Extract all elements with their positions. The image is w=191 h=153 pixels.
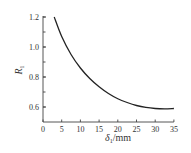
data-line-r1: [54, 17, 174, 109]
x-tick-label: 10: [76, 125, 84, 134]
axes: 051015202530350.60.81.01.2: [29, 13, 178, 134]
y-tick-label: 0.6: [29, 103, 39, 112]
x-axis-label: δ1/mm: [105, 132, 131, 144]
x-tick-label: 5: [60, 125, 64, 134]
x-tick-label: 35: [170, 125, 178, 134]
y-tick-label: 1.2: [29, 13, 39, 22]
y-tick-label: 0.8: [29, 73, 39, 82]
x-tick-label: 0: [41, 125, 45, 134]
x-tick-label: 15: [95, 125, 103, 134]
y-axis-label: R1: [13, 65, 25, 75]
x-tick-label: 30: [151, 125, 159, 134]
chart: 051015202530350.60.81.01.2 δ1/mm R1: [0, 0, 191, 153]
y-tick-label: 1.0: [29, 43, 39, 52]
x-tick-label: 25: [133, 125, 141, 134]
